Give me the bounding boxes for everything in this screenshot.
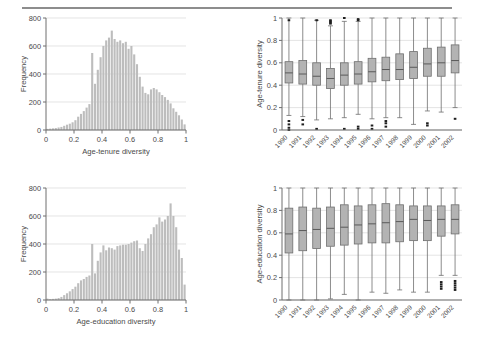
histogram-bar: [164, 220, 166, 301]
histogram-bar: [139, 248, 141, 300]
histogram-bar: [150, 234, 152, 300]
histogram-bar: [144, 93, 146, 130]
outlier-marker: [440, 281, 443, 283]
histogram-bar: [147, 94, 149, 130]
box-iqr: [396, 205, 404, 242]
x-tick-label: 0.8: [153, 305, 163, 314]
y-tick-label: 0.6: [267, 58, 277, 67]
clipped-caption: [18, 0, 458, 5]
box-iqr: [382, 57, 390, 81]
box-iqr: [340, 205, 348, 245]
x-tick-label: 0.4: [97, 305, 107, 314]
histogram-bar: [130, 243, 132, 300]
histogram-bar: [91, 53, 93, 130]
histogram-bar: [116, 246, 118, 300]
box-iqr: [340, 63, 348, 85]
histogram-bar: [172, 108, 174, 130]
histogram-bar: [161, 95, 163, 130]
histogram-bar: [83, 111, 85, 130]
y-tick-label: 0.6: [267, 228, 277, 237]
boxplot-box: [354, 188, 362, 300]
box-iqr: [285, 62, 293, 83]
histogram-bar: [136, 241, 138, 301]
histogram-bar: [94, 273, 96, 300]
x-tick-label-year: 1991: [287, 134, 303, 150]
boxplot-box: [424, 18, 432, 127]
boxplot-box: [396, 188, 404, 290]
outlier-marker: [288, 127, 291, 129]
y-tick-label: 1: [273, 184, 277, 193]
histogram-bar: [108, 248, 110, 301]
boxplot-box: [285, 188, 293, 300]
boxplot-box: [410, 18, 418, 124]
y-axis-title: Frequency: [19, 56, 28, 92]
x-tick-label-year: 2000: [412, 304, 428, 320]
histogram-bar: [80, 114, 82, 130]
histogram-bar: [153, 227, 155, 300]
histogram-bar: [147, 238, 149, 300]
y-tick-label: 600: [29, 212, 41, 221]
figure-container: 020040060080000.20.40.60.81Age-tenure di…: [0, 0, 477, 340]
y-axis-title: Age-education diversity: [255, 204, 264, 283]
boxplot-box: [313, 188, 321, 300]
histogram-bar: [158, 92, 160, 130]
histogram-bar: [88, 104, 90, 130]
histogram-bar: [69, 124, 71, 130]
histogram-bar: [172, 216, 174, 300]
y-tick-label: 200: [29, 98, 41, 107]
x-tick-label: 0: [44, 305, 48, 314]
x-tick-label-year: 1990: [273, 304, 289, 320]
histogram-bar: [150, 89, 152, 130]
outlier-marker: [343, 17, 346, 19]
boxplot-box: [451, 18, 459, 120]
histogram-bar: [111, 248, 113, 300]
x-axis-title: Age-education diversity: [77, 317, 156, 326]
histogram-bar: [119, 245, 121, 300]
x-tick-label-year: 1998: [384, 134, 400, 150]
box-iqr: [382, 204, 390, 243]
outlier-marker: [288, 19, 291, 21]
boxplot-box: [285, 18, 293, 131]
x-tick-label-year: 1997: [370, 304, 386, 320]
histogram-bar: [114, 250, 116, 300]
box-iqr: [313, 208, 321, 248]
histogram-bar: [91, 244, 93, 300]
x-tick-label-year: 2000: [412, 134, 428, 150]
outlier-marker: [385, 126, 388, 128]
histogram-bar: [119, 40, 121, 130]
boxplot-box: [396, 18, 404, 118]
histogram-bar: [122, 245, 124, 300]
boxplot-box: [299, 18, 307, 125]
histogram-bar: [142, 87, 144, 130]
histogram-bar: [128, 244, 130, 300]
outlier-marker: [357, 126, 360, 128]
histogram-bar: [184, 124, 186, 130]
outlier-marker: [426, 122, 429, 124]
x-tick-label-year: 1996: [356, 134, 372, 150]
boxplot-box: [410, 188, 418, 292]
header-rule: [22, 7, 452, 9]
histogram-bar: [102, 46, 104, 130]
x-tick-label: 0.4: [97, 135, 107, 144]
box-iqr: [437, 47, 445, 76]
histogram-bar: [97, 261, 99, 300]
outlier-marker: [454, 118, 457, 120]
boxplot-box: [368, 18, 376, 130]
x-tick-label-year: 1998: [384, 304, 400, 320]
box-iqr: [368, 58, 376, 82]
histogram-bar: [144, 244, 146, 300]
box-iqr: [285, 208, 293, 253]
y-axis-title: Age-tenure diversity: [255, 40, 264, 108]
histogram-bar: [139, 77, 141, 130]
histogram-bar: [100, 252, 102, 300]
boxplot-box: [354, 18, 362, 130]
boxplot-box: [327, 19, 335, 119]
age-tenure-boxplot: 1990199119921993199419951996199719981999…: [255, 14, 462, 149]
age-education-boxplot: 1990199119921993199419951996199719981999…: [255, 184, 462, 319]
outlier-marker: [454, 282, 457, 284]
histogram-bar: [77, 117, 79, 130]
histogram-bar: [72, 122, 74, 130]
x-tick-label-year: 1999: [398, 304, 414, 320]
histogram-bar: [125, 42, 127, 130]
box-iqr: [299, 207, 307, 251]
